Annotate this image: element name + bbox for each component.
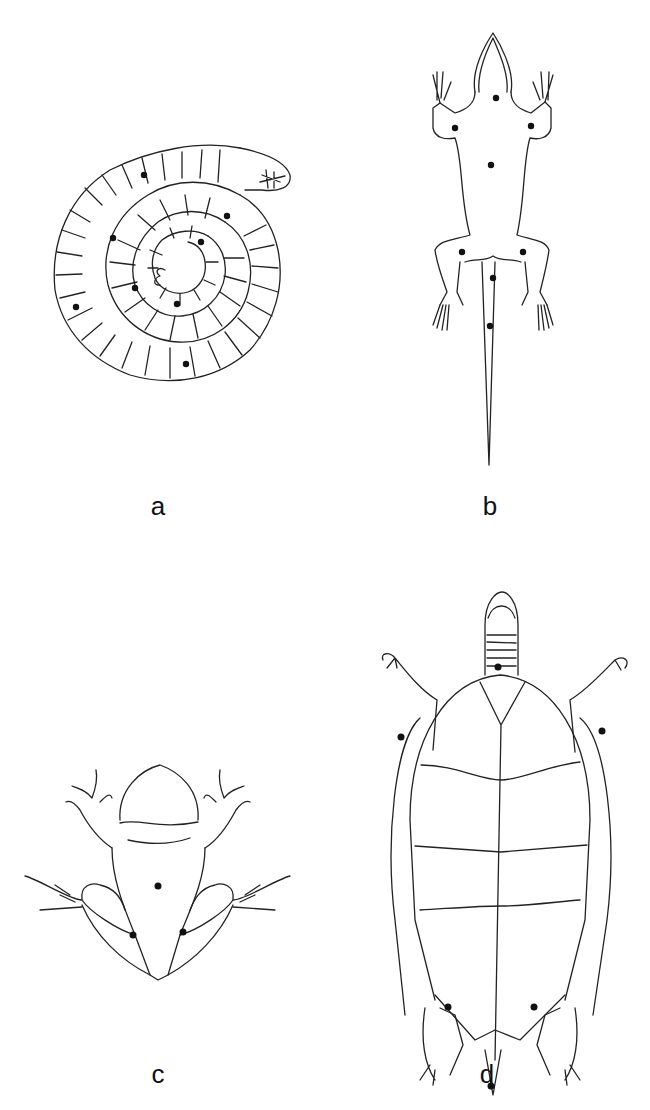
panel-label-c: c (152, 1061, 165, 1087)
panel-a-caecilian: a (0, 0, 325, 540)
panel-label-b: b (483, 493, 497, 519)
lizard-drawing (325, 0, 650, 540)
panel-b-lizard: b (325, 0, 650, 540)
turtle-drawing (325, 540, 650, 1110)
panel-label-d: d (480, 1061, 494, 1087)
marker-dot (141, 172, 147, 178)
frog-drawing (0, 540, 325, 1110)
panel-c-frog: c (0, 540, 325, 1110)
caecilian-drawing (0, 0, 325, 540)
panel-d-turtle: d (325, 540, 650, 1110)
panel-label-a: a (151, 493, 165, 519)
